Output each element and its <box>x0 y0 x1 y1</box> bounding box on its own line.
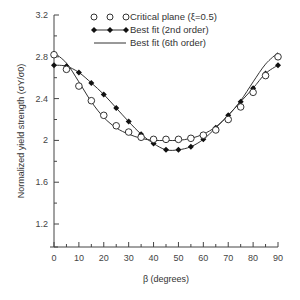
circle-marker <box>200 132 207 139</box>
series-group <box>51 51 282 152</box>
circle-marker <box>76 83 83 90</box>
diamond-marker <box>175 147 181 153</box>
legend: Critical plane (ξ=0.5) Best fit (2nd ord… <box>91 11 217 48</box>
circle-marker <box>113 122 120 129</box>
legend-diamond-icon <box>123 27 129 33</box>
y-tick-label: 2 <box>43 135 48 145</box>
legend-circle-icon <box>107 14 113 20</box>
diamond-marker <box>275 62 281 68</box>
circle-marker <box>163 136 170 143</box>
y-tick-label: 2.4 <box>35 94 48 104</box>
circle-marker <box>150 136 157 143</box>
circle-marker <box>225 116 232 123</box>
circle-marker <box>250 89 257 96</box>
legend-circle-icon <box>91 14 97 20</box>
x-tick-label: 70 <box>223 253 233 263</box>
circle-marker <box>237 104 244 111</box>
y-tick-label: 1.2 <box>35 219 48 229</box>
diamond-marker <box>188 144 194 150</box>
x-tick-label: 90 <box>273 253 283 263</box>
circle-marker <box>63 66 70 73</box>
y-tick-label: 1.6 <box>35 177 48 187</box>
diamond-marker <box>163 147 169 153</box>
x-tick-label: 30 <box>124 253 134 263</box>
circle-marker <box>138 134 145 141</box>
y-tick-label: 2.8 <box>35 52 48 62</box>
y-axis-label: Normalized yield strength (σY/σ0) <box>16 64 26 199</box>
circle-marker <box>188 135 195 142</box>
x-tick-label: 60 <box>198 253 208 263</box>
legend-label-2nd-order: Best fit (2nd order) <box>130 24 209 35</box>
x-tick-label: 40 <box>149 253 159 263</box>
series-6th-order-line <box>54 53 278 141</box>
x-axis-label: β (degrees) <box>143 274 189 284</box>
legend-diamond-icon <box>91 27 97 33</box>
x-tick-label: 50 <box>173 253 183 263</box>
x-tick-label: 10 <box>74 253 84 263</box>
diamond-marker <box>51 62 57 68</box>
x-tick-label: 80 <box>248 253 258 263</box>
y-tick-label: 3.2 <box>35 10 48 20</box>
chart: 01020304050607080901.21.622.42.83.2 Crit… <box>0 0 300 300</box>
circle-marker <box>125 129 132 136</box>
x-tick-label: 0 <box>51 253 56 263</box>
legend-circle-icon <box>123 14 129 20</box>
legend-diamond-icon <box>107 27 113 33</box>
circle-marker <box>175 136 182 143</box>
circle-marker <box>212 127 219 134</box>
x-tick-label: 20 <box>99 253 109 263</box>
circle-marker <box>88 97 95 104</box>
circle-marker <box>100 112 107 119</box>
legend-label-critical-plane: Critical plane (ξ=0.5) <box>130 11 217 22</box>
circle-marker <box>262 72 269 79</box>
circle-marker <box>51 51 58 58</box>
legend-label-6th-order: Best fit (6th order) <box>130 37 206 48</box>
circle-marker <box>275 54 282 61</box>
